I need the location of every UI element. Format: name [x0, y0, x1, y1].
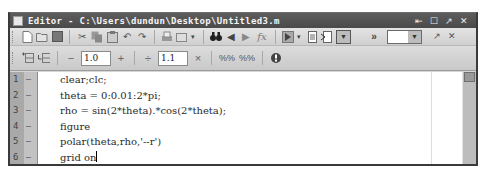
- decrement-button[interactable]: −: [65, 52, 77, 64]
- main-toolbar: ✂ ↶ ↷ ▾ ◀ ▶ fx ▾: [10, 28, 476, 46]
- vertical-scrollbar[interactable]: [462, 72, 476, 164]
- undock-toolbar-icon[interactable]: ↗: [431, 31, 443, 43]
- line-number: 3: [10, 103, 24, 119]
- stack-dropdown[interactable]: ▼: [387, 30, 422, 44]
- print-options-dropdown-icon[interactable]: ▾: [191, 33, 197, 41]
- code-line[interactable]: rho = sin(2*theta).*cos(2*theta);: [60, 103, 462, 119]
- toolbar-grip[interactable]: [12, 52, 15, 64]
- toolbar-separator: [134, 51, 135, 65]
- multiply-button[interactable]: ×: [192, 52, 204, 64]
- code-line[interactable]: figure: [60, 119, 462, 135]
- redo-icon[interactable]: ↷: [136, 31, 148, 43]
- code-line[interactable]: clear;clc;: [60, 72, 462, 88]
- back-arrow-icon[interactable]: ◀: [225, 31, 237, 43]
- right-text-margin: [431, 72, 432, 164]
- help-info-icon[interactable]: [270, 52, 282, 64]
- close-toolbar-icon[interactable]: ✕: [446, 31, 458, 43]
- breakpoint-marker[interactable]: –: [24, 88, 37, 104]
- open-file-icon[interactable]: [36, 31, 48, 43]
- toolbar-separator: [69, 30, 70, 44]
- comment-icon[interactable]: %%: [219, 52, 235, 64]
- chevron-down-icon: ▼: [337, 31, 350, 43]
- maximize-icon[interactable]: ☐: [430, 16, 438, 26]
- undock-icon[interactable]: ↗: [445, 16, 453, 26]
- editor-app-icon: [13, 16, 23, 26]
- run-section-icon[interactable]: [306, 31, 318, 43]
- breakpoint-marker[interactable]: –: [24, 103, 37, 119]
- cell-mode-dropdown[interactable]: ▼: [336, 30, 351, 44]
- window-controls: ⇤ ☐ ↗ ✕: [415, 16, 476, 26]
- line-number: 6: [10, 150, 24, 166]
- breakpoint-marker[interactable]: –: [24, 150, 37, 166]
- line-number: 4: [10, 119, 24, 135]
- breakpoint-column[interactable]: – – – – – –: [24, 72, 37, 164]
- toolbar-separator: [211, 51, 212, 65]
- paste-icon[interactable]: [106, 31, 118, 43]
- line-number: 2: [10, 88, 24, 104]
- cell-evaluate-icon[interactable]: [38, 52, 50, 64]
- code-line-text[interactable]: grid on: [60, 152, 96, 163]
- run-icon[interactable]: [282, 31, 294, 43]
- more-tools-icon[interactable]: »: [368, 31, 380, 43]
- line-numbers: 1 2 3 4 5 6: [10, 72, 24, 164]
- function-fx-icon[interactable]: fx: [255, 31, 269, 43]
- breakpoint-marker[interactable]: –: [24, 119, 37, 135]
- cut-icon[interactable]: ✂: [76, 31, 88, 43]
- close-icon[interactable]: ✕: [460, 16, 468, 26]
- evaluate-cell-icon[interactable]: [321, 31, 333, 43]
- window-title: Editor - C:\Users\dundun\Desktop\Untitle…: [28, 16, 280, 26]
- code-line[interactable]: polar(theta,rho,'--r'): [60, 134, 462, 150]
- increment-button[interactable]: +: [115, 52, 127, 64]
- decrement-value-input[interactable]: [81, 51, 111, 66]
- toolbar-separator: [262, 51, 263, 65]
- text-cursor: [96, 151, 97, 162]
- print-icon[interactable]: [161, 31, 173, 43]
- toolbar-separator: [154, 30, 155, 44]
- line-number: 5: [10, 134, 24, 150]
- title-bar[interactable]: Editor - C:\Users\dundun\Desktop\Untitle…: [10, 13, 476, 28]
- undo-icon[interactable]: ↶: [121, 31, 133, 43]
- print-options-icon[interactable]: [176, 31, 188, 43]
- toolbar-grip[interactable]: [12, 31, 15, 43]
- toolbar-separator: [203, 30, 204, 44]
- toolbar-separator: [57, 51, 58, 65]
- cell-toolbar: − + ÷ × %% %%: [10, 46, 476, 71]
- dock-icon[interactable]: ⇤: [415, 16, 423, 26]
- find-binoculars-icon[interactable]: [210, 31, 222, 43]
- uncomment-icon[interactable]: %%: [239, 52, 255, 64]
- breakpoint-marker[interactable]: –: [24, 72, 37, 88]
- divide-button[interactable]: ÷: [142, 52, 154, 64]
- editor-gutter: 1 2 3 4 5 6 – – – – – –: [10, 72, 38, 164]
- new-file-icon[interactable]: [21, 31, 33, 43]
- multiply-value-input[interactable]: [158, 51, 188, 66]
- save-icon[interactable]: [51, 31, 63, 43]
- run-dropdown-icon[interactable]: ▾: [297, 33, 303, 41]
- code-line[interactable]: theta = 0:0.01:2*pi;: [60, 88, 462, 104]
- chevron-down-icon: ▼: [408, 31, 421, 43]
- forward-arrow-icon[interactable]: ▶: [240, 31, 252, 43]
- line-number: 1: [10, 72, 24, 88]
- code-line-active[interactable]: grid on: [60, 150, 462, 166]
- toolbar-separator: [275, 30, 276, 44]
- code-area[interactable]: clear;clc; theta = 0:0.01:2*pi; rho = si…: [38, 72, 462, 164]
- editor-window: Editor - C:\Users\dundun\Desktop\Untitle…: [8, 12, 478, 166]
- scrollbar-thumb[interactable]: [464, 72, 475, 82]
- insert-cell-divider-icon[interactable]: [22, 52, 34, 64]
- code-editor[interactable]: 1 2 3 4 5 6 – – – – – – clear;clc; theta…: [10, 72, 476, 164]
- stack-dropdown-value: [388, 31, 408, 43]
- breakpoint-marker[interactable]: –: [24, 134, 37, 150]
- copy-icon[interactable]: [91, 31, 103, 43]
